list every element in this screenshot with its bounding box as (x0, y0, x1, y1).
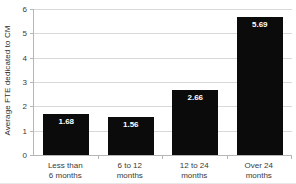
x-axis-category-labels: Less than6 months6 to 12months12 to 24mo… (33, 161, 291, 184)
y-axis-tick-label: 0 (23, 151, 27, 160)
bar[interactable]: 1.68 (43, 114, 89, 155)
y-axis-tick-label: 4 (23, 53, 27, 62)
x-axis-category-label-line: Less than (33, 161, 98, 171)
bar-chart: Average FTE dedicated to CM 0123456 1.68… (0, 0, 296, 184)
y-axis-tick-label: 2 (23, 102, 27, 111)
plot-area: 1.681.562.665.69 (33, 9, 292, 155)
y-axis-title-text: Average FTE dedicated to CM (3, 25, 12, 135)
bar-value-label: 5.69 (237, 20, 283, 29)
x-axis-category-label-line: 6 to 12 (98, 161, 163, 171)
bar[interactable]: 5.69 (237, 17, 283, 155)
x-axis-category-label: Less than6 months (33, 161, 98, 181)
x-axis-category-label-line: months (162, 171, 227, 181)
bar-value-label: 2.66 (172, 93, 218, 102)
x-axis-category-label-line: months (227, 171, 292, 181)
x-axis-tickmark (162, 155, 163, 159)
y-axis-title: Average FTE dedicated to CM (0, 0, 14, 160)
x-axis-category-label: Over 24months (227, 161, 292, 181)
bars-layer: 1.681.562.665.69 (34, 9, 292, 155)
y-axis-tick-label: 6 (23, 5, 27, 14)
bar[interactable]: 1.56 (108, 117, 154, 155)
x-axis-category-label: 6 to 12months (98, 161, 163, 181)
x-axis-tickmark (227, 155, 228, 159)
y-axis-tick-label: 3 (23, 78, 27, 87)
bar[interactable]: 2.66 (172, 90, 218, 155)
y-axis-tick-label: 5 (23, 29, 27, 38)
x-axis-category-label-line: months (98, 171, 163, 181)
y-axis-tick-label: 1 (23, 126, 27, 135)
x-axis-tickmark (291, 155, 292, 159)
x-axis-category-label-line: Over 24 (227, 161, 292, 171)
bar-value-label: 1.68 (43, 117, 89, 126)
x-axis-tickmarks (33, 155, 291, 160)
x-axis-category-label-line: 6 months (33, 171, 98, 181)
y-axis-tick-labels: 0123456 (14, 0, 30, 160)
x-axis-category-label: 12 to 24months (162, 161, 227, 181)
x-axis-category-label-line: 12 to 24 (162, 161, 227, 171)
x-axis-tickmark (98, 155, 99, 159)
bar-value-label: 1.56 (108, 120, 154, 129)
